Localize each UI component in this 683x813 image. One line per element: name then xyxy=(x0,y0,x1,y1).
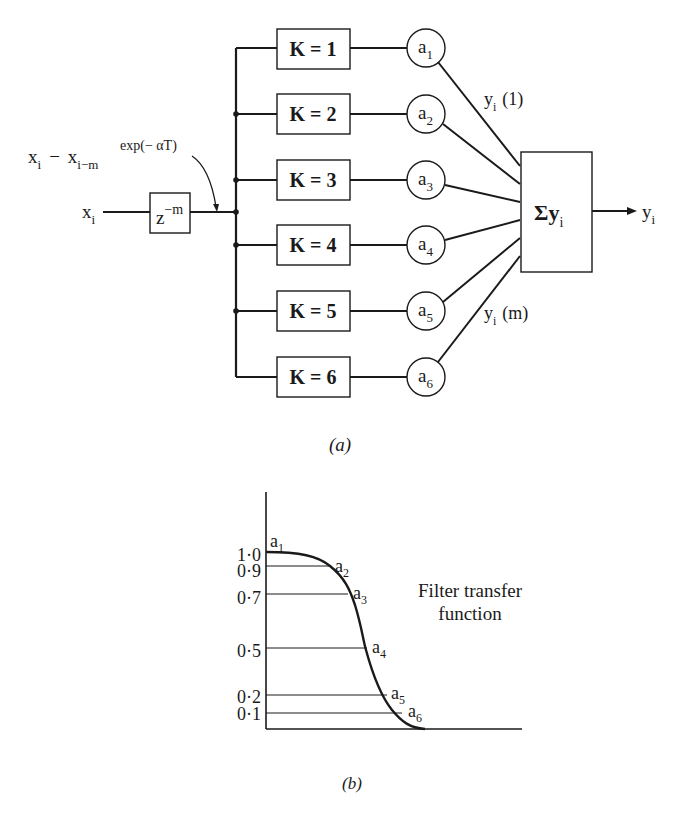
svg-text:0·1: 0·1 xyxy=(237,704,261,724)
svg-text:xi−xi−m: xi−xi−m xyxy=(28,146,98,172)
svg-text:K = 4: K = 4 xyxy=(290,234,337,256)
svg-text:K = 3: K = 3 xyxy=(290,169,337,191)
filter-row-3: K = 3 a3 xyxy=(233,160,445,200)
svg-text:a1: a1 xyxy=(418,36,433,62)
svg-text:a2: a2 xyxy=(418,102,433,128)
chart-title-line1: Filter transfer xyxy=(418,580,523,601)
chart-title-line2: function xyxy=(438,603,502,624)
svg-text:Σyi: Σyi xyxy=(534,200,563,230)
svg-text:a5: a5 xyxy=(391,683,405,707)
svg-text:0·9: 0·9 xyxy=(237,561,261,581)
y-tick-labels: 1·0 0·9 0·7 0·5 0·2 0·1 xyxy=(237,545,261,724)
delay-block: z−m xyxy=(150,193,190,233)
filter-row-2: K = 2 a2 xyxy=(233,94,445,134)
svg-text:K = 5: K = 5 xyxy=(290,300,337,322)
caption-b: (b) xyxy=(342,774,362,793)
svg-text:a5: a5 xyxy=(418,299,433,325)
svg-text:0·5: 0·5 xyxy=(237,641,261,661)
svg-text:exp(− αT): exp(− αT) xyxy=(120,138,177,154)
annotation-arrow xyxy=(192,156,216,207)
input-label: xi xyxy=(82,201,96,227)
svg-text:z−m: z−m xyxy=(156,202,183,228)
branch-label-last: yi(m) xyxy=(484,303,528,328)
point-labels: a1 a2 a3 a4 a5 a6 xyxy=(270,531,422,725)
svg-text:a6: a6 xyxy=(408,701,422,725)
output-arrowhead-icon xyxy=(627,207,637,215)
annotation-arrowhead-icon xyxy=(213,204,219,212)
figure-a: xi−xi−m exp(− αT) xi z−m K = 1 a1 xyxy=(28,29,656,456)
svg-text:a3: a3 xyxy=(418,168,433,194)
svg-text:K = 1: K = 1 xyxy=(290,38,337,60)
figure-canvas: xi−xi−m exp(− αT) xi z−m K = 1 a1 xyxy=(0,0,683,813)
svg-text:K = 2: K = 2 xyxy=(290,103,337,125)
filter-row-5: K = 5 a5 xyxy=(233,291,445,331)
branch-label-first: yi(1) xyxy=(484,89,523,114)
summer-block: Σyi xyxy=(521,152,592,272)
filter-row-6: K = 6 a6 xyxy=(236,357,445,397)
output-label: yi xyxy=(642,201,656,227)
svg-text:0·7: 0·7 xyxy=(237,588,261,608)
svg-text:a4: a4 xyxy=(372,637,386,661)
svg-text:K = 6: K = 6 xyxy=(290,366,337,388)
figure-b: 1·0 0·9 0·7 0·5 0·2 0·1 a1 a2 a3 a4 a5 a… xyxy=(237,492,523,793)
svg-text:a6: a6 xyxy=(418,365,433,391)
svg-text:a4: a4 xyxy=(418,233,433,259)
junction-dot xyxy=(233,209,239,215)
filter-row-4: K = 4 a4 xyxy=(233,225,445,265)
filter-row-1: K = 1 a1 xyxy=(236,29,445,69)
caption-a: (a) xyxy=(329,434,351,456)
